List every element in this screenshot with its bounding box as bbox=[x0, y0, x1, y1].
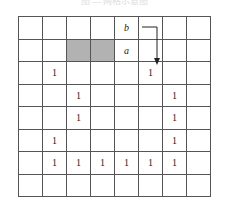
grid-cell bbox=[187, 84, 211, 107]
grid-cell bbox=[67, 62, 91, 85]
grid-cell: 1 bbox=[67, 84, 91, 107]
grid-cell bbox=[43, 174, 67, 197]
grid-diagram: ba11111111111111 bbox=[18, 16, 211, 197]
grid-row: 11 bbox=[19, 62, 211, 85]
grid-cell bbox=[91, 174, 115, 197]
grid-row: a bbox=[19, 39, 211, 62]
grid-cell: 1 bbox=[139, 152, 163, 175]
grid-cell bbox=[91, 84, 115, 107]
grid-cell bbox=[139, 17, 163, 40]
grid-cell: 1 bbox=[163, 152, 187, 175]
grid-cell: 1 bbox=[115, 152, 139, 175]
grid-cell bbox=[163, 17, 187, 40]
grid-cell: 1 bbox=[43, 152, 67, 175]
grid-cell bbox=[19, 174, 43, 197]
grid-cell bbox=[187, 39, 211, 62]
grid-cell bbox=[67, 17, 91, 40]
grid-cell: 1 bbox=[67, 107, 91, 130]
grid-cell bbox=[19, 39, 43, 62]
grid-cell bbox=[91, 62, 115, 85]
grid-cell: 1 bbox=[67, 152, 91, 175]
grid-cell bbox=[43, 17, 67, 40]
grid-cell bbox=[19, 17, 43, 40]
grid-cell: 1 bbox=[139, 62, 163, 85]
grid-cell bbox=[163, 174, 187, 197]
figure-caption: 图 — 网格示意图 bbox=[0, 0, 229, 7]
grid-cell: 1 bbox=[43, 129, 67, 152]
grid-cell bbox=[187, 174, 211, 197]
grid-cell bbox=[115, 84, 139, 107]
grid-cell bbox=[19, 62, 43, 85]
grid-cell bbox=[43, 107, 67, 130]
grid-cell bbox=[139, 84, 163, 107]
grid-cell bbox=[187, 107, 211, 130]
grid-cell bbox=[91, 107, 115, 130]
grid-cell bbox=[67, 174, 91, 197]
grid-cell: 1 bbox=[91, 152, 115, 175]
grid-row: 11 bbox=[19, 129, 211, 152]
grid-cell bbox=[19, 129, 43, 152]
grid-cell bbox=[19, 107, 43, 130]
grid-cell bbox=[187, 129, 211, 152]
grid-cell bbox=[91, 129, 115, 152]
grid-cell bbox=[115, 174, 139, 197]
grid-cell bbox=[67, 129, 91, 152]
grid-cell bbox=[187, 62, 211, 85]
grid-row: 11 bbox=[19, 84, 211, 107]
grid-row: 11 bbox=[19, 107, 211, 130]
grid-cell bbox=[139, 107, 163, 130]
grid-cell bbox=[163, 39, 187, 62]
grid-row: b bbox=[19, 17, 211, 40]
grid-cell: 1 bbox=[163, 129, 187, 152]
grid-cell: a bbox=[115, 39, 139, 62]
grid-cell: 1 bbox=[163, 107, 187, 130]
grid-cell bbox=[139, 174, 163, 197]
grid-cell: 1 bbox=[163, 84, 187, 107]
grid-cell: b bbox=[115, 17, 139, 40]
grid-cell bbox=[91, 39, 115, 62]
grid-cell bbox=[67, 39, 91, 62]
grid-cell bbox=[187, 152, 211, 175]
grid-cell bbox=[139, 39, 163, 62]
grid-cell bbox=[91, 17, 115, 40]
grid-cell bbox=[187, 17, 211, 40]
grid-cell: 1 bbox=[43, 62, 67, 85]
grid-cell bbox=[163, 62, 187, 85]
grid-cell bbox=[43, 84, 67, 107]
grid-row: 111111 bbox=[19, 152, 211, 175]
grid-row bbox=[19, 174, 211, 197]
grid-cell bbox=[115, 107, 139, 130]
grid-cell bbox=[43, 39, 67, 62]
grid-cell bbox=[19, 152, 43, 175]
grid-cell bbox=[139, 129, 163, 152]
grid-cell bbox=[115, 129, 139, 152]
grid-cell bbox=[115, 62, 139, 85]
grid-cell bbox=[19, 84, 43, 107]
